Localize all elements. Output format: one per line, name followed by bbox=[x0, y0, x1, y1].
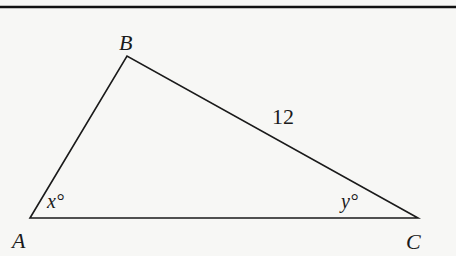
angle-label-a: x° bbox=[46, 190, 64, 212]
angle-label-c: y° bbox=[339, 190, 358, 213]
triangle-abc bbox=[30, 56, 418, 218]
triangle-diagram: B A C 12 x° y° bbox=[0, 0, 456, 256]
vertex-label-a: A bbox=[10, 228, 26, 253]
vertex-label-b: B bbox=[119, 30, 132, 55]
vertex-label-c: C bbox=[406, 229, 421, 254]
side-label-bc: 12 bbox=[272, 104, 294, 129]
